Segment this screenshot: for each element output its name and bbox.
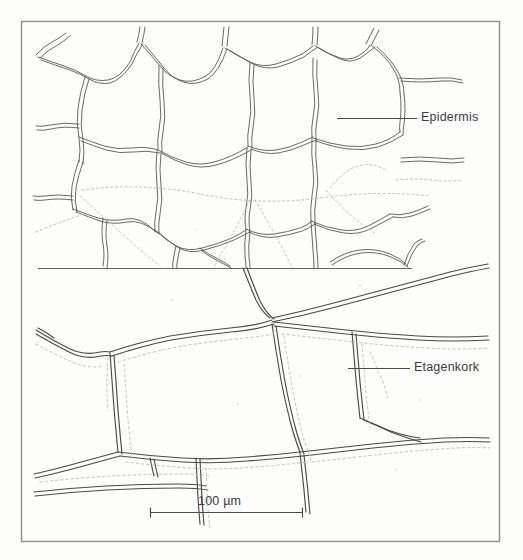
scale-bar-label: 100 µm	[198, 495, 241, 508]
scale-bar	[150, 508, 303, 518]
etagenkork-cell-network	[34, 264, 490, 525]
label-epidermis: Epidermis	[421, 111, 478, 124]
epidermis-cell-network	[33, 27, 464, 268]
figure-root: Epidermis Etagenkork 100 µm	[0, 0, 523, 560]
label-etagenkork: Etagenkork	[414, 361, 479, 374]
illustration-canvas	[0, 0, 523, 560]
